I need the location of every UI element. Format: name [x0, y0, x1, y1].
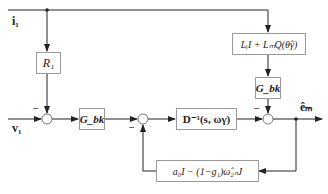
block-inductance: LᵢI + LₘQ(θ̂γ) [232, 33, 306, 55]
block-gbk-forward: G_bk [79, 108, 105, 130]
sum3-minus-sign: − [254, 103, 260, 114]
block-d-inverse: D⁻¹(s, ωγ) [176, 108, 237, 130]
input-v1-label: v₁ [12, 121, 22, 136]
output-em-label: êₘ [300, 100, 312, 115]
block-gbk-feedthrough: G_bk [255, 77, 281, 99]
sum2-minus-sign: − [129, 122, 135, 133]
input-i1-label: i₁ [12, 14, 19, 29]
sum1-minus-sign: − [33, 103, 39, 114]
block-r1: R₁ [36, 52, 61, 74]
block-feedback: a₀I − (1−g₁)ω̂₂ₙJ [156, 160, 259, 182]
